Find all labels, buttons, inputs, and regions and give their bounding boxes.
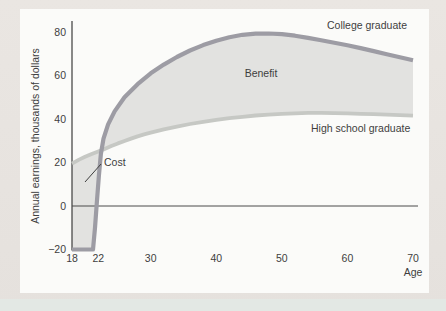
y-tick-label: 0: [40, 200, 66, 212]
y-tick-label: 40: [40, 113, 66, 125]
cost-region-label: Cost: [104, 157, 126, 169]
x-tick-label: 70: [398, 252, 428, 264]
y-tick-label: 60: [40, 69, 66, 81]
benefit-area: [101, 34, 413, 154]
x-tick-label: 30: [136, 252, 166, 264]
x-tick-label: 40: [201, 252, 231, 264]
y-tick-label: 80: [40, 26, 66, 38]
college-graduate-curve-label: College graduate: [327, 20, 407, 32]
x-tick-label: 50: [267, 252, 297, 264]
benefit-region-label: Benefit: [245, 68, 278, 80]
earnings-age-chart: [0, 0, 446, 311]
x-tick-label: 60: [332, 252, 362, 264]
x-axis-label: Age: [398, 267, 428, 279]
x-tick-label: 22: [83, 252, 113, 264]
y-tick-label: 20: [40, 156, 66, 168]
high-school-graduate-curve-label: High school graduate: [311, 123, 410, 135]
